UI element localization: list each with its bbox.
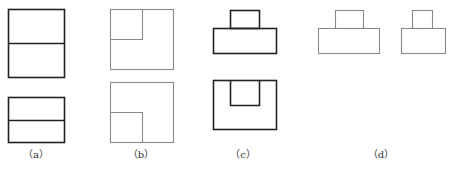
figure-b-label: （b） (128, 149, 154, 160)
figure-d-label: （d） (368, 149, 394, 160)
figure-a-label: （a） (23, 149, 49, 160)
figure-d-right-small (413, 11, 433, 29)
figure-d-right-large (402, 29, 446, 54)
figure-b (111, 10, 174, 143)
diagram-canvas: （a） （b） （c） （d） (0, 0, 450, 174)
figure-c (214, 11, 277, 130)
figure-d (319, 11, 446, 54)
figure-b-top-inner (111, 10, 143, 40)
figure-c-top-small (231, 11, 260, 29)
figure-d-left-small (336, 11, 364, 29)
figure-c-top-large (214, 29, 277, 54)
figure-d-left-large (319, 29, 380, 54)
figure-c-label: （c） (230, 149, 256, 160)
figure-b-bottom-inner (111, 113, 143, 143)
figure-c-bottom-inner (231, 81, 260, 106)
figure-a (9, 10, 65, 143)
